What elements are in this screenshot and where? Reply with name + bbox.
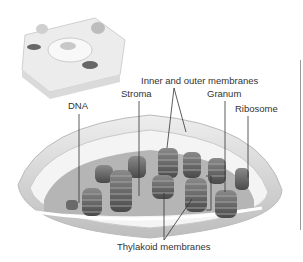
granum-stack (158, 148, 178, 178)
granum-stack (66, 200, 78, 210)
chloroplast-illustration (0, 0, 303, 262)
granum-stack (183, 152, 201, 178)
label-ribosome: Ribosome (235, 104, 278, 114)
label-inner-outer-membranes: Inner and outer membranes (141, 76, 258, 86)
label-thylakoid-membranes: Thylakoid membranes (117, 242, 210, 252)
frame-edge (300, 60, 301, 230)
chloroplast-diagram: DNA Stroma Inner and outer membranes Gra… (0, 0, 303, 262)
granum-stack (185, 178, 207, 212)
label-granum: Granum (207, 89, 241, 99)
label-dna: DNA (68, 101, 88, 111)
plant-cell-inset (22, 18, 125, 99)
granum-stack (235, 168, 249, 190)
label-stroma: Stroma (121, 89, 152, 99)
